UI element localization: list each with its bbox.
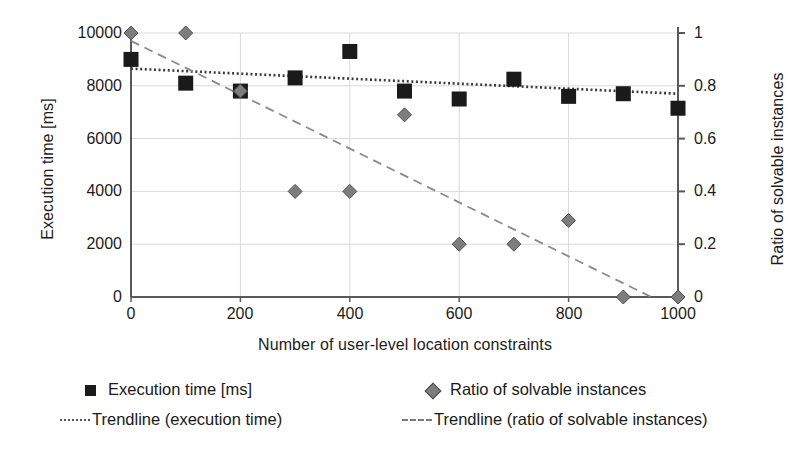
dashed-line-icon bbox=[402, 412, 432, 428]
x-tick-1000: 1000 bbox=[633, 305, 723, 323]
legend-item-execution-time[interactable]: Execution time [ms] bbox=[76, 380, 252, 399]
legend-label-execution-time: Execution time [ms] bbox=[106, 380, 252, 399]
legend-label-trendline-execution-time: Trendline (execution time) bbox=[90, 410, 282, 429]
x-tick-600: 600 bbox=[414, 305, 504, 323]
square-marker-icon bbox=[76, 382, 106, 398]
legend-item-trendline-ratio[interactable]: Trendline (ratio of solvable instances) bbox=[402, 410, 708, 429]
chart-legend: Execution time [ms] Ratio of solvable in… bbox=[0, 378, 802, 444]
legend-label-ratio: Ratio of solvable instances bbox=[448, 380, 646, 399]
y-axis-right-title: Ratio of solvable instances bbox=[769, 39, 787, 299]
x-tick-200: 200 bbox=[195, 305, 285, 323]
x-axis-title: Number of user-level location constraint… bbox=[131, 336, 679, 354]
y-axis-left-title: Execution time [ms] bbox=[39, 59, 57, 279]
dotted-line-icon bbox=[60, 412, 90, 428]
x-tick-0: 0 bbox=[86, 305, 176, 323]
chart-container: 10000 8000 6000 4000 2000 0 1 0.8 0.6 0.… bbox=[0, 0, 802, 450]
legend-item-ratio[interactable]: Ratio of solvable instances bbox=[418, 380, 646, 399]
legend-item-trendline-execution-time[interactable]: Trendline (execution time) bbox=[60, 410, 282, 429]
diamond-marker-icon bbox=[418, 382, 448, 398]
legend-label-trendline-ratio: Trendline (ratio of solvable instances) bbox=[432, 410, 708, 429]
x-tick-800: 800 bbox=[524, 305, 614, 323]
x-tick-400: 400 bbox=[305, 305, 395, 323]
